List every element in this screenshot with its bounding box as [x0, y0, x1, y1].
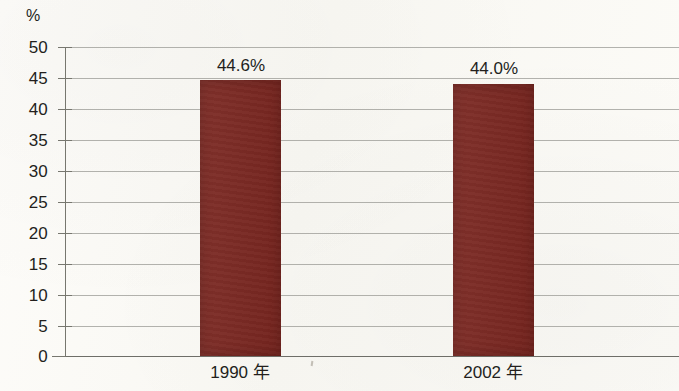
gridline-10	[65, 295, 679, 296]
y-tick-mark-25	[58, 202, 72, 203]
gridline-25	[65, 202, 679, 203]
y-tick-mark-20	[58, 233, 72, 234]
gridline-30	[65, 171, 679, 172]
y-axis-unit-label: %	[26, 8, 40, 24]
y-tick-label-30: 30	[4, 163, 48, 180]
y-tick-label-15: 15	[4, 256, 48, 273]
y-tick-label-20: 20	[4, 225, 48, 242]
gridline-45	[65, 78, 679, 79]
y-tick-mark-15	[58, 264, 72, 265]
y-tick-label-50: 50	[4, 39, 48, 56]
plot-area: % 50 45 40 35 30 25 20 15	[0, 0, 679, 391]
bar-1990[interactable]	[200, 80, 281, 356]
gridline-5	[65, 326, 679, 327]
bar-value-label-1990: 44.6%	[186, 57, 296, 74]
y-tick-mark-10	[58, 295, 72, 296]
gridline-20	[65, 233, 679, 234]
x-category-label-1990: 1990 年	[185, 364, 295, 381]
y-tick-mark-45	[58, 78, 72, 79]
scan-artifact-speck	[311, 361, 314, 366]
y-tick-mark-40	[58, 109, 72, 110]
gridline-50	[65, 47, 679, 48]
y-tick-label-35: 35	[4, 132, 48, 149]
y-tick-label-45: 45	[4, 70, 48, 87]
y-tick-mark-50	[58, 47, 72, 48]
gridline-35	[65, 140, 679, 141]
y-tick-label-5: 5	[4, 318, 48, 335]
gridline-40	[65, 109, 679, 110]
bar-value-label-2002: 44.0%	[439, 60, 549, 77]
y-tick-label-40: 40	[4, 101, 48, 118]
y-tick-mark-30	[58, 171, 72, 172]
y-tick-mark-0	[52, 356, 66, 357]
bar-2002[interactable]	[453, 84, 534, 356]
y-tick-label-10: 10	[4, 287, 48, 304]
bar-chart-figure: % 50 45 40 35 30 25 20 15	[0, 0, 679, 391]
y-tick-label-25: 25	[4, 194, 48, 211]
x-axis-baseline	[52, 356, 679, 357]
y-tick-mark-5	[58, 326, 72, 327]
y-tick-label-0: 0	[4, 348, 48, 365]
x-category-label-2002: 2002 年	[438, 364, 548, 381]
gridline-15	[65, 264, 679, 265]
y-tick-mark-35	[58, 140, 72, 141]
